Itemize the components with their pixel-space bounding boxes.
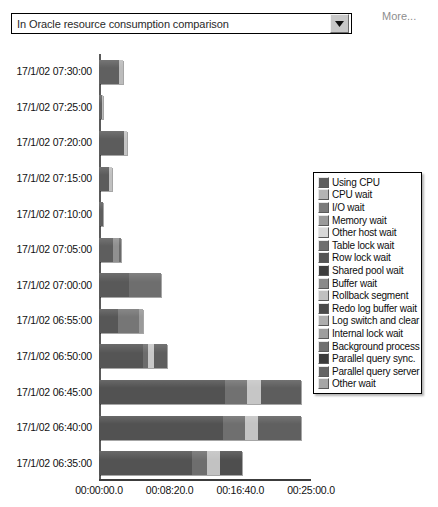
chart-bar[interactable] <box>99 380 301 404</box>
chart-bar[interactable] <box>99 131 127 155</box>
chart-bar-segment[interactable] <box>99 416 223 440</box>
category-label: 17/1/02 06:55:00 <box>16 315 92 326</box>
legend-item[interactable]: Log switch and clear <box>318 315 418 328</box>
chart-bar-segment[interactable] <box>109 167 113 191</box>
chevron-down-icon[interactable] <box>330 14 349 33</box>
chart-bar-segment[interactable] <box>99 273 129 297</box>
legend-item[interactable]: Table lock wait <box>318 239 418 252</box>
chart-bar[interactable] <box>99 60 123 84</box>
legend-item-label: CPU wait <box>332 189 418 200</box>
legend-item[interactable]: Other host wait <box>318 226 418 239</box>
chart-bar-segment[interactable] <box>102 95 103 119</box>
legend-swatch-icon <box>318 177 329 188</box>
chart-bar[interactable] <box>99 273 161 297</box>
legend-item[interactable]: Redo log buffer wait <box>318 302 418 315</box>
chart-bar[interactable] <box>99 309 143 333</box>
legend-item-label: Other host wait <box>332 227 418 238</box>
legend-swatch-icon <box>318 328 329 339</box>
x-axis-tick-label: 00:00:00.0 <box>75 484 123 496</box>
legend-swatch-icon <box>318 240 329 251</box>
chart-bar-segment[interactable] <box>99 131 124 155</box>
toolbar: In Oracle resource consumption compariso… <box>0 0 438 40</box>
legend-item-label: Rollback segment <box>332 290 418 301</box>
category-label: 17/1/02 07:05:00 <box>16 244 92 255</box>
legend-item-label: Buffer wait <box>332 278 418 289</box>
chart-bar-segment[interactable] <box>220 451 242 475</box>
chart-bar-segment[interactable] <box>99 60 119 84</box>
chart-bar-segment[interactable] <box>99 380 225 404</box>
chart-bar-segment[interactable] <box>261 380 301 404</box>
legend-item[interactable]: I/O wait <box>318 201 418 214</box>
chart-bar-segment[interactable] <box>192 451 207 475</box>
chart-bar-segment[interactable] <box>223 416 245 440</box>
legend-item-label: I/O wait <box>332 202 418 213</box>
legend-swatch-icon <box>318 252 329 263</box>
legend-item-label: Shared pool wait <box>332 265 418 276</box>
legend-item[interactable]: Parallel query server <box>318 365 418 378</box>
x-axis-tick-label: 00:16:40.0 <box>217 484 265 496</box>
legend-item[interactable]: Parallel query sync. <box>318 352 418 365</box>
chart-bar-segment[interactable] <box>99 309 118 333</box>
legend-item[interactable]: Using CPU <box>318 176 418 189</box>
chart-bar-row: 17/1/02 06:55:00 <box>99 309 311 333</box>
legend-swatch-icon <box>318 189 329 200</box>
legend-item[interactable]: Other wait <box>318 378 418 391</box>
chart-bar[interactable] <box>99 238 121 262</box>
legend-swatch-icon <box>318 290 329 301</box>
legend-item[interactable]: Internal lock wait <box>318 327 418 340</box>
legend-item[interactable]: Background process <box>318 340 418 353</box>
legend-item-label: Log switch and clear <box>332 315 419 326</box>
chart-bar-segment[interactable] <box>207 451 220 475</box>
chart-bar-segment[interactable] <box>99 238 113 262</box>
chart-bar-segment[interactable] <box>247 380 260 404</box>
legend-swatch-icon <box>318 303 329 314</box>
chart-bar-row: 17/1/02 07:20:00 <box>99 131 311 155</box>
chart-bar-row: 17/1/02 06:40:00 <box>99 416 311 440</box>
legend-item-label: Parallel query sync. <box>332 353 418 364</box>
chart-bar-segment[interactable] <box>124 131 128 155</box>
legend-item[interactable]: Shared pool wait <box>318 264 418 277</box>
chart-bar-segment[interactable] <box>118 309 139 333</box>
category-label: 17/1/02 07:30:00 <box>16 66 92 77</box>
legend-swatch-icon <box>318 202 329 213</box>
legend-swatch-icon <box>318 378 329 389</box>
chart-bar-segment[interactable] <box>154 344 167 368</box>
chart-bar[interactable] <box>99 416 301 440</box>
chart-bar-segment[interactable] <box>258 416 301 440</box>
category-label: 17/1/02 06:45:00 <box>16 387 92 398</box>
legend-item[interactable]: Rollback segment <box>318 289 418 302</box>
legend-item[interactable]: CPU wait <box>318 189 418 202</box>
chart-bar-segment[interactable] <box>245 416 258 440</box>
legend-item-label: Parallel query server <box>332 366 420 377</box>
legend-item-label: Background process <box>332 341 420 352</box>
chart-bar-segment[interactable] <box>119 60 123 84</box>
legend-item[interactable]: Row lock wait <box>318 252 418 265</box>
legend-item[interactable]: Memory wait <box>318 214 418 227</box>
chart-bar-segment[interactable] <box>129 273 161 297</box>
chart-bar-segment[interactable] <box>99 167 109 191</box>
chart-bar[interactable] <box>99 167 112 191</box>
chart-bar-segment[interactable] <box>99 344 143 368</box>
chart-bar[interactable] <box>99 202 103 226</box>
chart-bar[interactable] <box>99 451 242 475</box>
chart-bar-segment[interactable] <box>119 238 121 262</box>
chart-bar-segment[interactable] <box>139 309 143 333</box>
chart-bar[interactable] <box>99 344 167 368</box>
series-selector-combobox[interactable]: In Oracle resource consumption compariso… <box>11 13 352 34</box>
chart-bar[interactable] <box>99 95 103 119</box>
chart-bar-row: 17/1/02 06:45:00 <box>99 380 311 404</box>
more-link[interactable]: More... <box>382 10 416 22</box>
chart-bar-segment[interactable] <box>225 380 248 404</box>
x-axis-tick-label: 00:08:20.0 <box>146 484 194 496</box>
chart-bar-row: 17/1/02 07:30:00 <box>99 60 311 84</box>
x-axis-tick-label: 00:25:00.0 <box>287 484 335 496</box>
series-selector-value[interactable]: In Oracle resource consumption compariso… <box>12 18 330 30</box>
legend-item[interactable]: Buffer wait <box>318 277 418 290</box>
chart-bar-segment[interactable] <box>99 451 192 475</box>
chart-bar-row: 17/1/02 07:10:00 <box>99 202 311 226</box>
legend-swatch-icon <box>318 353 329 364</box>
chart-bar-row: 17/1/02 07:00:00 <box>99 273 311 297</box>
category-label: 17/1/02 07:10:00 <box>16 209 92 220</box>
chart-bar-segment[interactable] <box>99 202 103 226</box>
legend-swatch-icon <box>318 366 329 377</box>
